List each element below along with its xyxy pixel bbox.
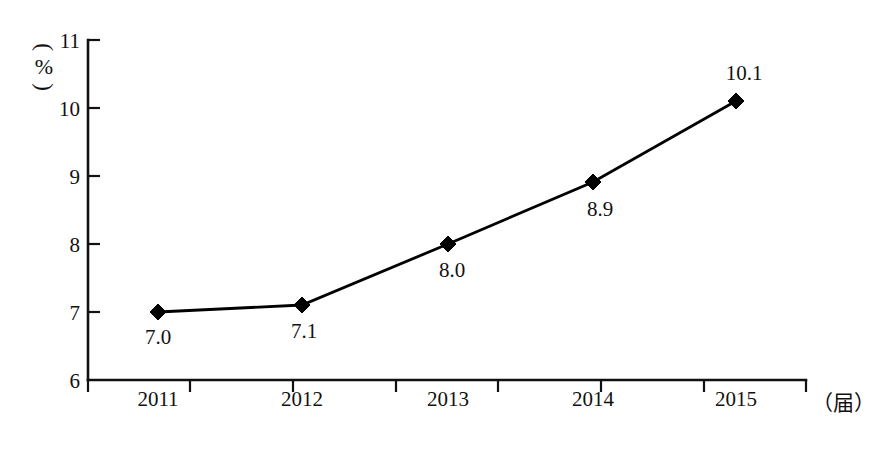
data-label-2012: 7.1 (291, 319, 317, 343)
data-point-2012 (294, 297, 310, 313)
y-axis-ticks (88, 40, 100, 312)
y-tick-label-7: 7 (70, 301, 81, 325)
y-axis-tick-labels: 11 10 9 8 7 6 (59, 29, 80, 393)
x-tick-label-2013: 2013 (427, 387, 469, 411)
series-markers (150, 93, 744, 320)
data-point-2013 (440, 236, 456, 252)
data-value-labels: 7.0 7.1 8.0 8.9 10.1 (145, 61, 763, 349)
line-chart: 11 10 9 8 7 6 2011 2012 2013 2014 2015 (0, 0, 881, 450)
data-label-2013: 8.0 (439, 258, 465, 282)
y-tick-label-9: 9 (70, 165, 81, 189)
data-point-2011 (150, 304, 166, 320)
data-point-2015 (728, 93, 744, 109)
data-label-2015: 10.1 (726, 61, 763, 85)
chart-page: ( % ) （届） 11 10 9 8 7 6 (0, 0, 881, 450)
x-tick-label-2012: 2012 (281, 387, 323, 411)
y-tick-label-8: 8 (70, 233, 81, 257)
data-label-2011: 7.0 (145, 325, 171, 349)
y-tick-label-6: 6 (70, 369, 81, 393)
data-label-2014: 8.9 (587, 197, 613, 221)
data-point-2014 (585, 174, 601, 190)
x-axis-tick-labels: 2011 2012 2013 2014 2015 (137, 387, 757, 411)
y-tick-label-10: 10 (59, 97, 80, 121)
y-tick-label-11: 11 (60, 29, 80, 53)
x-tick-label-2014: 2014 (572, 387, 615, 411)
x-tick-label-2011: 2011 (137, 387, 178, 411)
x-tick-label-2015: 2015 (715, 387, 757, 411)
